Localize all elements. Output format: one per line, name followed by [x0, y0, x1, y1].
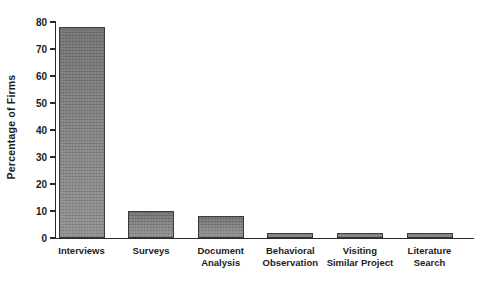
bar-document-analysis	[198, 216, 244, 238]
bar-surveys	[128, 211, 174, 238]
plot-area: 01020304050607080InterviewsSurveysDocume…	[55, 22, 474, 239]
y-tick-label: 70	[36, 44, 47, 55]
y-tick-mark	[50, 129, 56, 131]
x-category-label: Visiting Similar Project	[326, 245, 394, 269]
y-tick-label: 30	[36, 152, 47, 163]
x-category-label: Behavioral Observation	[256, 245, 324, 269]
y-tick-label: 40	[36, 125, 47, 136]
y-tick-mark	[50, 183, 56, 185]
y-tick-mark	[50, 102, 56, 104]
bar-literature-search	[407, 233, 453, 238]
bar-interviews	[59, 27, 105, 238]
y-tick-label: 60	[36, 71, 47, 82]
y-tick-mark	[50, 156, 56, 158]
bar-visiting-similar-project	[337, 233, 383, 238]
y-tick-mark	[50, 75, 56, 77]
y-tick-label: 0	[41, 233, 47, 244]
bar-chart-figure: Percentage of Firms 01020304050607080Int…	[0, 0, 480, 292]
x-category-label: Interviews	[48, 245, 116, 257]
y-tick-mark	[50, 21, 56, 23]
y-tick-label: 20	[36, 179, 47, 190]
y-tick-mark	[50, 210, 56, 212]
y-tick-mark	[50, 48, 56, 50]
y-tick-label: 50	[36, 98, 47, 109]
x-category-label: Surveys	[117, 245, 185, 257]
y-tick-label: 80	[36, 17, 47, 28]
y-tick-mark	[50, 237, 56, 239]
y-axis-label: Percentage of Firms	[5, 52, 17, 202]
y-tick-label: 10	[36, 206, 47, 217]
x-category-label: Document Analysis	[187, 245, 255, 269]
x-category-label: Literature Search	[396, 245, 464, 269]
bar-behavioral-observation	[267, 233, 313, 238]
